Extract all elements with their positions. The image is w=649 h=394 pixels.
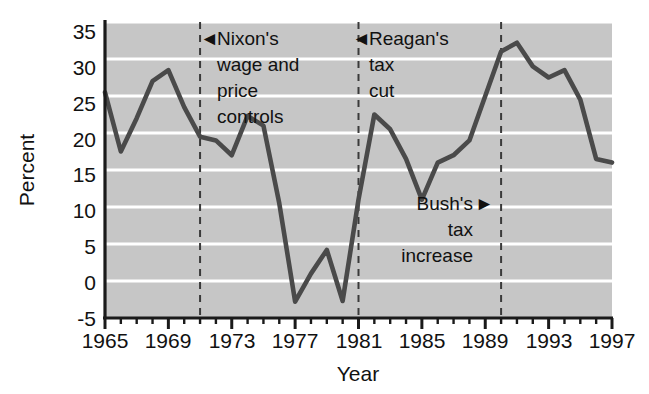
reagan-label-line3: cut (369, 80, 395, 101)
x-tick-label-1989: 1989 (462, 329, 509, 352)
bush-label-line3: increase (401, 245, 473, 266)
x-tick-label-1977: 1977 (272, 329, 319, 352)
reagan-label-line1: Reagan's (369, 28, 449, 49)
y-tick-label-20: 20 (73, 128, 96, 151)
nixon-label-line4: controls (217, 106, 284, 127)
bush-label-line1: Bush's (417, 193, 473, 214)
y-tick-label-10: 10 (73, 199, 96, 222)
nixon-label-line3: price (217, 80, 258, 101)
y-tick-label-25: 25 (73, 92, 96, 115)
nixon-label-line2: wage and (216, 54, 299, 75)
x-axis-ticks-group (105, 318, 612, 329)
x-axis-tick-labels: 1965 1969 1973 1977 1981 1985 1989 1993 … (82, 329, 636, 352)
x-axis-title: Year (337, 362, 379, 385)
x-tick-label-1981: 1981 (336, 329, 383, 352)
y-axis-title: Percent (15, 134, 38, 207)
y-tick-label-35: 35 (73, 20, 96, 43)
nixon-arrow-icon: ◄ (200, 28, 219, 49)
x-tick-label-1973: 1973 (209, 329, 256, 352)
y-tick-label-5: 5 (84, 235, 96, 258)
reagan-label-line2: tax (369, 54, 395, 75)
x-tick-label-1965: 1965 (82, 329, 129, 352)
y-tick-label-0: 0 (84, 271, 96, 294)
bush-arrow-icon: ► (475, 193, 494, 214)
percent-vs-year-line-chart: 35 30 25 20 15 10 5 0 -5 1965 1969 1973 … (0, 0, 649, 394)
bush-label-line2: tax (448, 219, 474, 240)
y-tick-label-15: 15 (73, 163, 96, 186)
y-tick-label-minus5: -5 (77, 307, 96, 330)
reagan-arrow-icon: ◄ (352, 28, 371, 49)
x-tick-label-1993: 1993 (526, 329, 573, 352)
x-tick-label-1985: 1985 (399, 329, 446, 352)
x-tick-label-1997: 1997 (589, 329, 636, 352)
y-tick-label-30: 30 (73, 56, 96, 79)
x-tick-label-1969: 1969 (145, 329, 192, 352)
nixon-label-line1: Nixon's (217, 28, 279, 49)
chart-container: 35 30 25 20 15 10 5 0 -5 1965 1969 1973 … (0, 0, 649, 394)
y-axis-tick-labels: 35 30 25 20 15 10 5 0 -5 (73, 20, 96, 330)
